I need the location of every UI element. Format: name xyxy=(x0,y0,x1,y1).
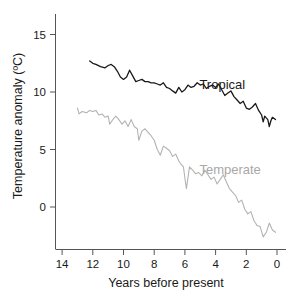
tropical-series-line xyxy=(90,61,276,127)
temperature-anomaly-chart: 151050 14121086420 Tropical Temperate Ye… xyxy=(0,0,303,305)
x-tick-label: 12 xyxy=(86,258,99,270)
x-tick-label: 6 xyxy=(182,258,188,270)
y-tick-label: 10 xyxy=(33,86,46,98)
y-axis: 151050 xyxy=(33,14,55,249)
x-tick-label: 14 xyxy=(56,258,69,270)
x-tick-label: 4 xyxy=(212,258,219,270)
x-axis-title: Years before present xyxy=(108,276,224,290)
y-tick-label: 15 xyxy=(33,29,46,41)
tropical-series-label: Tropical xyxy=(199,77,245,92)
chart-svg: 151050 14121086420 Tropical Temperate Ye… xyxy=(0,0,303,305)
y-tick-label: 0 xyxy=(40,201,46,213)
series-layer xyxy=(78,61,276,237)
temperate-series-label: Temperate xyxy=(199,162,260,177)
x-tick-label: 10 xyxy=(117,258,130,270)
x-axis: 14121086420 xyxy=(56,250,287,271)
x-tick-label: 8 xyxy=(151,258,157,270)
y-tick-label: 5 xyxy=(40,144,46,156)
x-tick-label: 2 xyxy=(243,258,249,270)
y-axis-title: Temperature anomaly (ºC) xyxy=(11,53,25,199)
x-tick-label: 0 xyxy=(274,258,280,270)
